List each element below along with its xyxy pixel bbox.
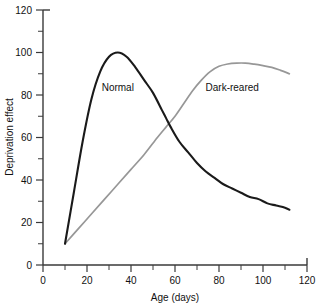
- y-tick-label: 100: [15, 47, 32, 58]
- x-tick-label: 0: [40, 275, 46, 286]
- x-axis-title: Age (days): [151, 292, 199, 303]
- y-tick-label: 20: [21, 217, 33, 228]
- y-tick-label: 80: [21, 90, 33, 101]
- y-tick-label: 0: [26, 260, 32, 271]
- y-tick-label: 40: [21, 175, 33, 186]
- y-tick-label: 60: [21, 132, 33, 143]
- y-axis-tick-labels: 0 20 40 60 80 100 120: [15, 5, 32, 271]
- x-tick-label: 20: [81, 275, 93, 286]
- x-tick-label: 40: [125, 275, 137, 286]
- series-annotation-normal: Normal: [102, 82, 134, 93]
- chart-figure: 0 20 40 60 80 100 120 0 20: [0, 0, 319, 306]
- y-tick-label: 120: [15, 5, 32, 16]
- x-axis-tick-labels: 0 20 40 60 80 100 120: [40, 275, 316, 286]
- x-tick-label: 80: [213, 275, 225, 286]
- line-chart: 0 20 40 60 80 100 120 0 20: [0, 0, 319, 306]
- x-axis-ticks: [43, 265, 307, 272]
- y-axis-title: Deprivation effect: [4, 98, 15, 176]
- x-tick-label: 60: [169, 275, 181, 286]
- x-tick-label: 100: [255, 275, 272, 286]
- y-axis-ticks: [36, 10, 43, 265]
- x-tick-label: 120: [299, 275, 316, 286]
- series-annotation-dark-reared: Dark-reared: [206, 82, 259, 93]
